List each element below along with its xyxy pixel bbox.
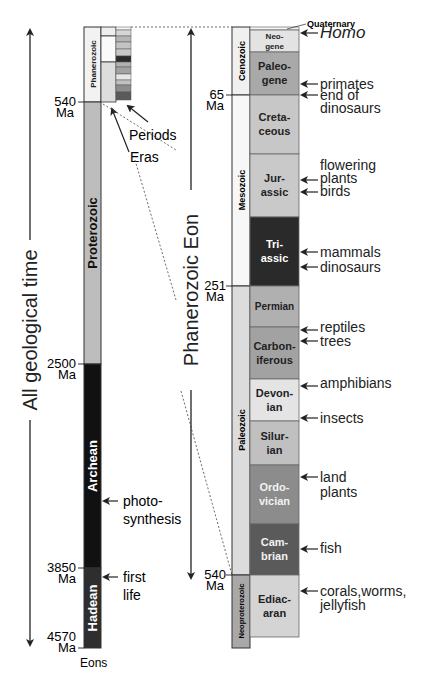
eras-column: Cenozoic Mesozoic Paleozoic Neoproterozo… (232, 27, 250, 648)
eon-label-hadean: Hadean (85, 584, 100, 631)
event-label: plants (320, 484, 357, 500)
inset-era-cenozoic (101, 27, 116, 36)
period-label-ordovician: vician (259, 495, 290, 507)
period-label-carboniferous: Carbon- (253, 340, 296, 352)
inset-period-jurassic (116, 49, 131, 56)
zoom-connector-bottom-mid (135, 160, 176, 300)
tick-3850-unit: Ma (58, 571, 77, 586)
event-label: dinosaurs (320, 100, 381, 116)
periods-column: Neo-genePaleo-geneCreta-ceousJur-assicTr… (250, 27, 299, 637)
inset-period-silurian (116, 80, 131, 85)
periods-pointer-label: Periods (129, 127, 176, 143)
inset-period-neogene (116, 30, 131, 36)
tick-4570-unit: Ma (58, 640, 77, 655)
event-label: amphibians (320, 375, 392, 391)
period-label-devonian: ian (267, 401, 283, 413)
tick-2500-unit: Ma (58, 367, 77, 382)
inset-pointers: Periods Eras (112, 106, 176, 165)
era-label-cenozoic: Cenozoic (237, 41, 247, 81)
eon-label-phanerozoic: Phanerozoic (89, 40, 98, 88)
period-label-silurian: Silur- (260, 430, 288, 442)
period-label-jurassic: Jur- (264, 172, 285, 184)
period-label-cretaceous: Creta- (259, 111, 291, 123)
inset-period-cambrian (116, 92, 131, 100)
periods-pointer-arrow (128, 106, 148, 122)
period-label-triassic: Tri- (266, 238, 283, 250)
event-photosynthesis-line2: synthesis (123, 511, 181, 527)
event-first-life-line1: first (123, 569, 146, 585)
period-label-ediacaran: aran (263, 607, 287, 619)
period-label-cretaceous: ceous (259, 125, 291, 137)
period-label-cambrian: brian (261, 550, 288, 562)
eons-column: Phanerozoic Proterozoic Archean Hadean (84, 27, 101, 648)
eras-pointer-label: Eras (130, 149, 159, 165)
eon-label-proterozoic: Proterozoic (85, 197, 100, 269)
inset-period-devonian (116, 74, 131, 80)
period-label-cambrian: Cam- (261, 536, 289, 548)
tick-65-unit: Ma (206, 98, 225, 113)
era-label-mesozoic: Mesozoic (237, 170, 247, 211)
era-label-neoproterozoic: Neoproterozoic (237, 583, 246, 638)
left-axis-title: All geological time (19, 249, 41, 410)
right-ticks: 65 Ma 251 Ma 540 Ma (204, 87, 232, 593)
period-label-paleogene: Paleo- (258, 60, 291, 72)
period-label-devonian: Devon- (256, 387, 294, 399)
inset-eras-column (101, 27, 116, 102)
event-label: trees (320, 333, 351, 349)
inset-period-ordovician (116, 85, 131, 92)
left-ticks: 540 Ma 2500 Ma 3850 Ma 4570 Ma (47, 94, 84, 655)
eons-caption: Eons (80, 656, 107, 670)
event-label: birds (320, 183, 350, 199)
event-first-life-line2: life (123, 587, 141, 603)
event-label: dinosaurs (320, 259, 381, 275)
event-label: Homo (320, 23, 365, 42)
geologic-timescale-diagram: All geological time Phanerozoic Proteroz… (0, 0, 424, 684)
period-label-paleogene: gene (262, 74, 288, 86)
period-label-neogene: gene (265, 42, 284, 51)
period-label-jurassic: assic (261, 186, 289, 198)
inset-period-triassic (116, 56, 131, 62)
period-label-ediacaran: Ediac- (258, 593, 291, 605)
tick-540-right-unit: Ma (206, 578, 225, 593)
event-label: jellyfish (319, 597, 366, 613)
event-photosynthesis-line1: photo- (123, 493, 163, 509)
event-label: land (320, 469, 346, 485)
inset-period-cretaceous (116, 42, 131, 49)
event-label: fish (320, 540, 342, 556)
right-events: Homoprimatesend ofdinosaursfloweringplan… (302, 23, 406, 613)
tick-540-left-unit: Ma (56, 105, 75, 120)
eon-label-archean: Archean (85, 440, 100, 492)
period-label-triassic: assic (261, 252, 289, 264)
event-label: mammals (320, 244, 381, 260)
inset-era-paleozoic (101, 62, 116, 102)
zoom-connector-bottom-lower (181, 391, 232, 575)
era-label-paleozoic: Paleozoic (237, 409, 247, 451)
period-label-neogene: Neo- (266, 32, 284, 41)
inset-period-carboniferous (116, 67, 131, 74)
left-events: photo- synthesis first life (104, 493, 181, 603)
inset-period-quaternary (116, 27, 131, 30)
period-label-silurian: ian (267, 444, 283, 456)
left-time-axis: All geological time (19, 30, 41, 645)
event-label: insects (320, 410, 364, 426)
inset-period-paleogene (116, 36, 131, 42)
inset-era-mesozoic (101, 36, 116, 62)
period-label-ordovician: Ordo- (260, 481, 290, 493)
period-label-carboniferous: iferous (256, 354, 293, 366)
inset-period-permian (116, 62, 131, 67)
right-time-axis: Phanerozoic Eon (180, 30, 202, 578)
right-axis-title: Phanerozoic Eon (180, 214, 202, 366)
tick-251-unit: Ma (206, 289, 225, 304)
inset-periods-column (116, 27, 131, 100)
period-label-permian: Permian (255, 301, 294, 312)
